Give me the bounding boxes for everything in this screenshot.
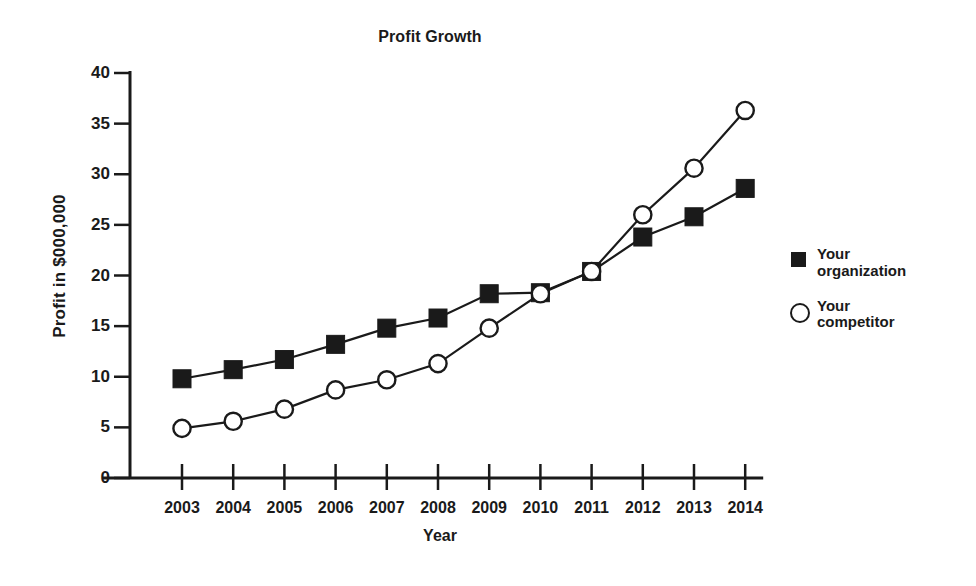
legend-label-line1: Your <box>817 297 850 314</box>
legend-item-your-competitor: Yourcompetitor <box>788 298 968 332</box>
chart-legend: Yourorganization Yourcompetitor <box>788 246 968 349</box>
data-point-circle <box>378 371 395 388</box>
data-point-square <box>736 179 754 197</box>
legend-label-your-organization: Yourorganization <box>817 246 906 280</box>
series-line <box>182 188 745 378</box>
data-point-circle <box>583 263 600 280</box>
data-point-square <box>327 335 345 353</box>
data-point-circle <box>532 285 549 302</box>
data-point-square <box>685 208 703 226</box>
legend-label-line2: organization <box>817 262 906 279</box>
open-circle-icon <box>788 300 810 322</box>
data-point-square <box>378 319 396 337</box>
data-point-circle <box>634 206 651 223</box>
data-point-square <box>224 361 242 379</box>
series-line <box>182 110 745 428</box>
data-point-square <box>173 370 191 388</box>
data-point-circle <box>481 320 498 337</box>
data-point-square <box>634 228 652 246</box>
data-point-circle <box>225 413 242 430</box>
data-point-square <box>429 309 447 327</box>
series-your-organization <box>173 179 754 387</box>
data-point-circle <box>173 420 190 437</box>
legend-label-your-competitor: Yourcompetitor <box>817 298 895 332</box>
data-point-circle <box>685 160 702 177</box>
legend-label-line2: competitor <box>817 313 895 330</box>
data-point-circle <box>737 102 754 119</box>
data-point-circle <box>327 381 344 398</box>
series-your-competitor <box>173 102 753 437</box>
data-point-circle <box>276 401 293 418</box>
profit-growth-chart: Profit Growth Profit in $000,000 Year 05… <box>0 0 976 586</box>
filled-square-icon <box>788 248 810 270</box>
data-point-circle <box>429 355 446 372</box>
legend-label-line1: Your <box>817 245 850 262</box>
data-point-square <box>480 285 498 303</box>
legend-item-your-organization: Yourorganization <box>788 246 968 280</box>
data-point-square <box>275 351 293 369</box>
